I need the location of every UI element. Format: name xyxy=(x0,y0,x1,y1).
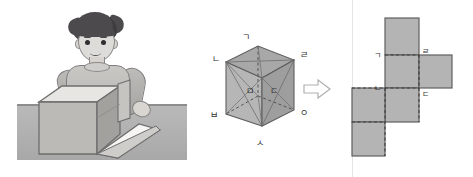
cube-label-left: ㄴ xyxy=(212,54,220,64)
net-diagram: ㄱ ㄹ ㄴ ㄷ xyxy=(330,0,473,177)
net-square-center-lower xyxy=(385,88,419,122)
net-label-mid-right: ㄷ xyxy=(422,90,429,99)
cube-label-inner-right: ㄷ xyxy=(270,86,278,96)
cube-label-top-right: ㄹ xyxy=(300,50,308,60)
illustration-panel xyxy=(0,0,196,177)
figure-root: ㄱ ㄹ ㄴ ㅁ ㄷ ㅂ ㅅ ㅇ ㄱ ㄹ ㄴ xyxy=(0,0,473,177)
cube-label-right: ㅇ xyxy=(300,108,308,118)
box-flap-standing xyxy=(118,80,130,122)
net-label-upper-left: ㄱ xyxy=(374,51,381,60)
right-arrow-icon xyxy=(303,78,331,100)
cardboard-box xyxy=(0,0,196,177)
net-square-right xyxy=(419,55,452,88)
arrow-shape xyxy=(304,80,330,98)
cube-label-bottom: ㅅ xyxy=(256,138,264,148)
net-square-top xyxy=(385,18,419,55)
net-panel: ㄱ ㄹ ㄴ ㄷ xyxy=(330,0,473,177)
net-label-upper-right: ㄹ xyxy=(422,47,429,56)
cube-label-bottom-left: ㅂ xyxy=(210,110,218,120)
net-square-left-lower xyxy=(352,122,385,156)
cube-label-inner-left: ㅁ xyxy=(246,86,254,96)
net-square-center-upper xyxy=(385,55,419,88)
box-front-face xyxy=(39,102,97,154)
net-square-left-upper xyxy=(352,88,385,122)
net-label-mid-left: ㄴ xyxy=(374,84,381,93)
cube-label-top: ㄱ xyxy=(242,32,250,42)
